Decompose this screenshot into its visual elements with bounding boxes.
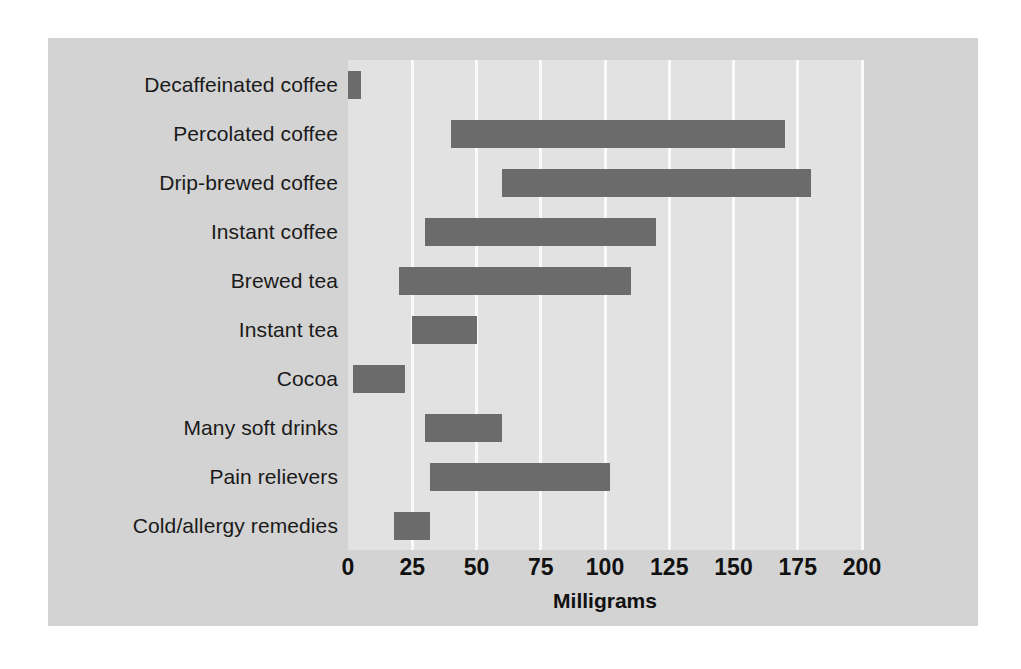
plot-area <box>348 60 862 550</box>
bar-row <box>348 403 862 452</box>
bar-row <box>348 354 862 403</box>
x-tick-label: 50 <box>464 554 490 581</box>
bar-series <box>348 60 862 550</box>
x-tick-label: 100 <box>586 554 624 581</box>
category-label: Cocoa <box>48 354 348 403</box>
bar-row <box>348 305 862 354</box>
x-tick-label: 150 <box>714 554 752 581</box>
bar <box>348 71 361 99</box>
category-label: Instant coffee <box>48 207 348 256</box>
bar <box>394 512 430 540</box>
bar-row <box>348 158 862 207</box>
category-label: Many soft drinks <box>48 403 348 452</box>
bar <box>430 463 610 491</box>
page-root: Decaffeinated coffeePercolated coffeeDri… <box>0 0 1021 669</box>
category-label: Percolated coffee <box>48 109 348 158</box>
chart-panel: Decaffeinated coffeePercolated coffeeDri… <box>48 38 978 626</box>
category-label: Decaffeinated coffee <box>48 60 348 109</box>
x-tick-label: 75 <box>528 554 554 581</box>
category-label: Brewed tea <box>48 256 348 305</box>
x-tick-label: 25 <box>399 554 425 581</box>
x-tick-label: 200 <box>843 554 881 581</box>
category-label: Instant tea <box>48 305 348 354</box>
bar-row <box>348 60 862 109</box>
x-axis-title: Milligrams <box>348 589 862 613</box>
x-tick-label: 125 <box>650 554 688 581</box>
bar <box>502 169 810 197</box>
category-axis-labels: Decaffeinated coffeePercolated coffeeDri… <box>48 60 348 550</box>
bar-row <box>348 452 862 501</box>
bar <box>353 365 404 393</box>
category-label: Pain relievers <box>48 452 348 501</box>
bar <box>425 414 502 442</box>
bar <box>425 218 656 246</box>
bar-row <box>348 207 862 256</box>
x-tick-label: 175 <box>779 554 817 581</box>
bar-row <box>348 501 862 550</box>
category-label: Cold/allergy remedies <box>48 501 348 550</box>
bar <box>412 316 476 344</box>
x-tick-label: 0 <box>342 554 355 581</box>
bar-row <box>348 109 862 158</box>
x-axis-tick-labels: 0255075100125150175200 <box>348 554 862 588</box>
bar <box>451 120 785 148</box>
plot-wrapper: Decaffeinated coffeePercolated coffeeDri… <box>48 38 978 626</box>
category-label: Drip-brewed coffee <box>48 158 348 207</box>
bar <box>399 267 630 295</box>
bar-row <box>348 256 862 305</box>
